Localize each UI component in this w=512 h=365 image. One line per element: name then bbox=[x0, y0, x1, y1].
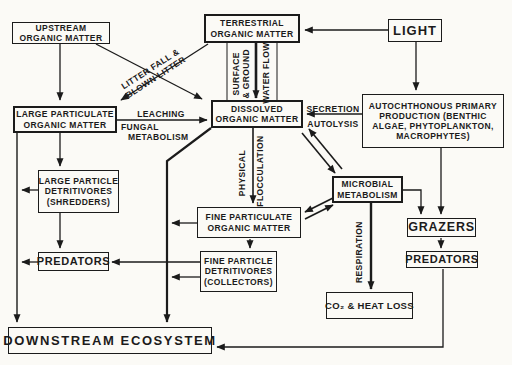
box-light: LIGHT bbox=[388, 19, 442, 42]
arrow-fpom-to-microbial bbox=[305, 205, 333, 219]
box-large-particulate-organic-matter: LARGE PARTICULATE ORGANIC MATTER bbox=[13, 106, 117, 133]
box-fine-particulate-organic-matter: FINE PARTICULATE ORGANIC MATTER bbox=[197, 207, 301, 238]
box-dissolved-organic-matter: DISSOLVED ORGANIC MATTER bbox=[211, 100, 303, 128]
diagram-canvas: UPSTREAM ORGANIC MATTER TERRESTRIAL ORGA… bbox=[0, 0, 512, 365]
box-terrestrial-organic-matter: TERRESTRIAL ORGANIC MATTER bbox=[204, 14, 300, 43]
box-grazers: GRAZERS bbox=[407, 218, 476, 237]
box-predators-left: PREDATORS bbox=[38, 252, 109, 271]
box-co2-heat-loss: CO₂ & HEAT LOSS bbox=[326, 292, 413, 319]
arrow-microbial-to-grazers bbox=[402, 190, 421, 214]
box-predators-right: PREDATORS bbox=[406, 251, 478, 268]
arrow-microbial-to-fpom bbox=[305, 198, 333, 212]
label-flocculation: FLOCCULATION bbox=[255, 135, 265, 207]
box-upstream-organic-matter: UPSTREAM ORGANIC MATTER bbox=[12, 22, 110, 44]
label-fungal-metabolism: METABOLISM bbox=[128, 132, 189, 142]
label-leaching: LEACHING bbox=[122, 109, 200, 119]
label-fungal: FUNGAL bbox=[121, 122, 159, 132]
label-autolysis: AUTOLYSIS bbox=[305, 119, 361, 129]
box-downstream-ecosystem: DOWNSTREAM ECOSYSTEM bbox=[8, 327, 212, 354]
arrow-microbial-to-dissolved bbox=[309, 129, 342, 169]
box-large-particle-detritivores-shredders: LARGE PARTICLE DETRITIVORES (SHREDDERS) bbox=[38, 170, 119, 213]
box-fine-particle-detritivores-collectors: FINE PARTICLE DETRITIVORES (COLLECTORS) bbox=[200, 251, 277, 292]
label-surface-ground: SURFACE & GROUND bbox=[232, 45, 252, 103]
box-autochthonous-primary-production: AUTOCHTHONOUS PRIMARY PRODUCTION (BENTHI… bbox=[362, 94, 504, 148]
arrow-dissolved-to-microbial bbox=[302, 133, 335, 173]
label-respiration: RESPIRATION bbox=[354, 219, 364, 285]
label-physical: PHYSICAL bbox=[237, 147, 247, 199]
label-secretion: SECRETION bbox=[304, 104, 362, 114]
label-water-flow: WATER FLOW bbox=[261, 42, 271, 104]
box-microbial-metabolism: MICROBIAL METABOLISM bbox=[332, 176, 403, 203]
